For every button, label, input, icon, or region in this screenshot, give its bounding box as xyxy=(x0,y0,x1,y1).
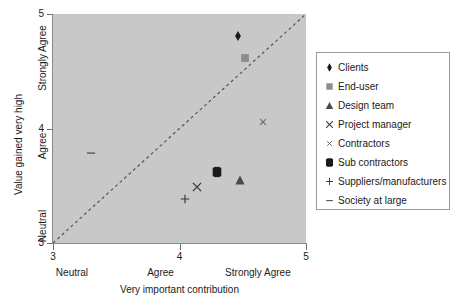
data-point-contractors xyxy=(257,116,268,127)
x-axis-title: Very important contribution xyxy=(53,284,306,295)
dash-marker-icon xyxy=(322,196,336,205)
y-category-label: Strongly Agree xyxy=(37,25,48,91)
y-category-label: Neutral xyxy=(37,210,48,242)
x-tick-label: 3 xyxy=(43,251,63,262)
legend-item-sub-contractors[interactable]: Sub contractors xyxy=(317,153,449,172)
data-point-design-team xyxy=(235,175,246,186)
x-category-label: Strongly Agree xyxy=(225,267,291,278)
x-tick-mark xyxy=(180,244,181,250)
legend-item-label: Design team xyxy=(338,100,394,111)
legend-item-label: Clients xyxy=(338,62,369,73)
y-category-label: Agree xyxy=(37,132,48,159)
legend-item-society-at-large[interactable]: Society at large xyxy=(317,191,449,210)
data-point-end-user xyxy=(240,52,251,63)
x-tick-label: 4 xyxy=(170,251,190,262)
square-gray-marker-icon xyxy=(322,82,336,91)
legend-item-label: Sub contractors xyxy=(338,157,408,168)
scatter-chart: 345 345 NeutralAgreeStrongly Agree Neutr… xyxy=(0,0,458,306)
legend-item-contractors[interactable]: Contractors xyxy=(317,134,449,153)
diamond-marker-icon xyxy=(322,63,336,72)
triangle-marker-icon xyxy=(322,101,336,110)
legend-item-label: Contractors xyxy=(338,138,390,149)
y-tick-mark xyxy=(47,14,53,15)
legend-item-label: Society at large xyxy=(338,195,407,206)
data-point-sub-contractors xyxy=(212,167,223,178)
x-tick-label: 5 xyxy=(296,251,316,262)
cross-small-marker-icon xyxy=(322,139,336,148)
y-tick-label: 5 xyxy=(30,8,44,19)
square-filled-marker-icon xyxy=(322,158,336,167)
x-category-label: Agree xyxy=(147,267,174,278)
cross-large-marker-icon xyxy=(322,120,336,129)
data-point-society-at-large xyxy=(85,147,96,158)
data-point-project-manager xyxy=(192,181,203,192)
plot-area xyxy=(53,14,306,243)
legend-item-suppliers-manufacturers[interactable]: Suppliers/manufacturers xyxy=(317,172,449,191)
data-point-suppliers-manufacturers xyxy=(179,194,190,205)
x-category-label: Neutral xyxy=(56,267,88,278)
legend-item-label: Suppliers/manufacturers xyxy=(338,176,446,187)
legend-item-end-user[interactable]: End-user xyxy=(317,77,449,96)
chart-legend: ClientsEnd-userDesign teamProject manage… xyxy=(316,52,450,210)
y-axis-title: Value gained very high xyxy=(13,94,24,195)
x-tick-mark xyxy=(306,244,307,250)
x-tick-mark xyxy=(53,244,54,250)
legend-item-label: End-user xyxy=(338,81,379,92)
data-point-clients xyxy=(232,30,243,41)
y-tick-mark xyxy=(47,129,53,130)
legend-item-label: Project manager xyxy=(338,119,411,130)
plus-marker-icon xyxy=(322,177,336,186)
legend-item-design-team[interactable]: Design team xyxy=(317,96,449,115)
legend-item-clients[interactable]: Clients xyxy=(317,58,449,77)
legend-item-project-manager[interactable]: Project manager xyxy=(317,115,449,134)
